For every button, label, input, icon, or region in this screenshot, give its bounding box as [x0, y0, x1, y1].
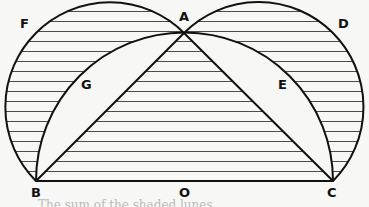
label-G: G [81, 78, 92, 91]
label-O: O [179, 186, 190, 199]
label-F: F [20, 17, 29, 30]
right-lune-hatch [0, 0, 369, 207]
label-D: D [338, 17, 349, 30]
label-B: B [31, 186, 41, 199]
label-A: A [179, 10, 189, 23]
label-E: E [278, 78, 287, 91]
caption: The sum of the shaded lunes ... [0, 199, 369, 207]
lune-diagram [0, 0, 369, 207]
label-C: C [327, 186, 337, 199]
